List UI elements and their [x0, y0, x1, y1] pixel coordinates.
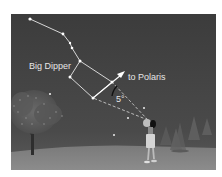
angle-label: 5° [116, 94, 125, 104]
big-dipper-diagram: 5° Big Dipper to Polaris [11, 14, 216, 170]
to-polaris-label: to Polaris [128, 72, 166, 82]
big-dipper-label: Big Dipper [29, 61, 71, 71]
